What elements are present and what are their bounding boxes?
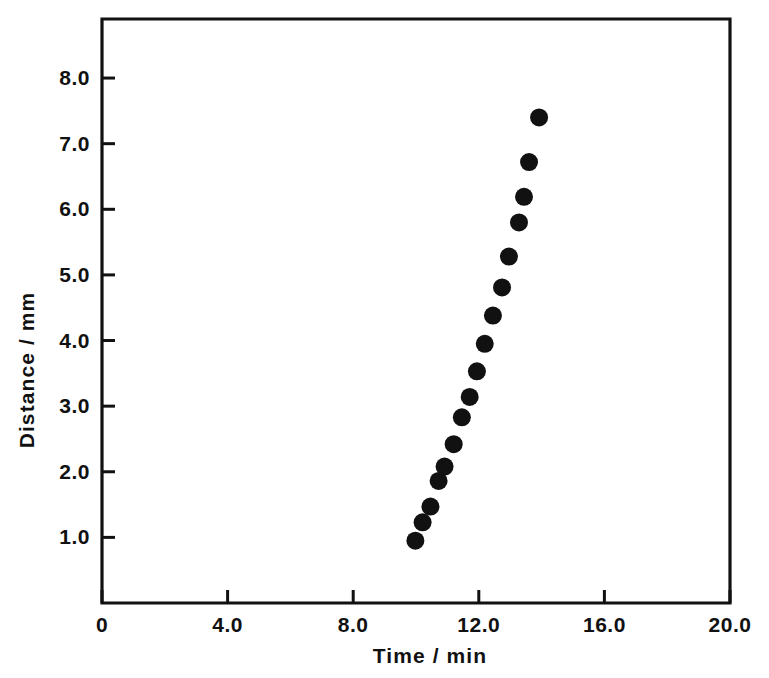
y-tick-label: 2.0 <box>59 460 90 483</box>
scatter-plot: 04.08.012.016.020.0 1.02.03.04.05.06.07.… <box>0 0 769 678</box>
y-tick-label: 4.0 <box>59 329 90 352</box>
data-point <box>453 408 471 426</box>
data-point <box>436 458 454 476</box>
data-point <box>406 532 424 550</box>
data-point <box>414 513 432 531</box>
data-point <box>500 248 518 266</box>
data-point <box>484 307 502 325</box>
x-tick-label: 8.0 <box>338 613 369 636</box>
data-point <box>461 388 479 406</box>
axes-box <box>102 19 730 603</box>
data-point <box>421 498 439 516</box>
y-tick-label: 5.0 <box>59 263 90 286</box>
data-point <box>468 362 486 380</box>
data-point <box>510 213 528 231</box>
x-tick-label: 20.0 <box>709 613 752 636</box>
data-point <box>445 435 463 453</box>
y-tick-label: 7.0 <box>59 132 90 155</box>
y-tick-label: 3.0 <box>59 394 90 417</box>
y-tick-label: 1.0 <box>59 525 90 548</box>
data-point-group <box>406 108 548 549</box>
x-tick-label: 12.0 <box>457 613 500 636</box>
y-tick-label: 6.0 <box>59 197 90 220</box>
chart-page: 04.08.012.016.020.0 1.02.03.04.05.06.07.… <box>0 0 769 678</box>
x-axis-ticks <box>102 590 730 603</box>
data-point <box>493 278 511 296</box>
data-point <box>515 188 533 206</box>
x-tick-label: 4.0 <box>212 613 243 636</box>
data-point <box>520 153 538 171</box>
y-axis-tick-labels: 1.02.03.04.05.06.07.08.0 <box>59 66 90 548</box>
y-axis-title: Distance / mm <box>15 292 38 449</box>
data-point <box>476 335 494 353</box>
x-tick-label: 16.0 <box>583 613 626 636</box>
data-point <box>530 108 548 126</box>
y-tick-label: 8.0 <box>59 66 90 89</box>
x-axis-tick-labels: 04.08.012.016.020.0 <box>96 613 752 636</box>
x-axis-title: Time / min <box>373 644 487 667</box>
x-tick-label: 0 <box>96 613 108 636</box>
y-axis-ticks <box>102 78 115 537</box>
axes-frame <box>102 19 730 603</box>
